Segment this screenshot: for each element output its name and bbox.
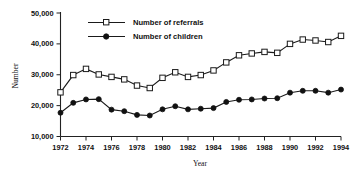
data-point [287, 41, 292, 46]
series-line [61, 36, 342, 93]
legend: Number of referrals Number of children [88, 18, 203, 41]
x-axis: 1972197419761978198019821984198619881990… [52, 137, 350, 152]
data-point [236, 53, 241, 58]
data-point [147, 85, 152, 90]
data-point [249, 51, 254, 56]
data-point [198, 72, 203, 77]
x-tick-label: 1980 [154, 143, 170, 152]
data-point [160, 75, 165, 80]
data-point [134, 83, 139, 88]
x-tick-label: 1976 [103, 143, 119, 152]
data-point [198, 106, 203, 111]
x-tick-label: 1974 [78, 143, 95, 152]
data-point [211, 106, 216, 111]
data-point [96, 97, 101, 102]
x-tick-label: 1984 [205, 143, 222, 152]
legend-marker-referrals [104, 20, 109, 25]
data-point [96, 72, 101, 77]
x-tick-label: 1994 [333, 143, 350, 152]
x-axis-title: Year [193, 159, 207, 168]
data-point [83, 66, 88, 71]
data-point [173, 104, 178, 109]
data-point [326, 39, 331, 44]
y-axis: 10,00020,00030,00040,00050,000 [31, 9, 61, 142]
data-point [186, 107, 191, 112]
data-point [147, 113, 152, 118]
legend-marker-children [104, 34, 109, 39]
x-tick-label: 1990 [282, 143, 298, 152]
data-point [237, 97, 242, 102]
y-tick-group: 10,00020,00030,00040,00050,000 [31, 9, 61, 142]
data-point [135, 112, 140, 117]
data-point [58, 90, 63, 95]
data-point [122, 77, 127, 82]
data-point [313, 38, 318, 43]
data-point [173, 70, 178, 75]
legend-label-referrals: Number of referrals [133, 18, 203, 27]
line-chart: 10,00020,00030,00040,00050,000 197219741… [0, 0, 351, 172]
data-point [211, 68, 216, 73]
y-tick-label: 50,000 [31, 9, 54, 18]
legend-label-children: Number of children [133, 32, 203, 41]
x-tick-group: 1972197419761978198019821984198619881990… [52, 137, 350, 152]
x-tick-label: 1988 [256, 143, 272, 152]
data-point [275, 50, 280, 55]
data-point [71, 100, 76, 105]
data-point [288, 90, 293, 95]
y-tick-label: 20,000 [31, 101, 54, 110]
data-point [300, 37, 305, 42]
data-point [275, 96, 280, 101]
data-point [262, 49, 267, 54]
y-tick-label: 30,000 [31, 70, 54, 79]
x-tick-label: 1992 [307, 143, 323, 152]
data-point [122, 109, 127, 114]
y-tick-label: 40,000 [31, 39, 54, 48]
data-point [84, 97, 89, 102]
data-point [326, 90, 331, 95]
data-point [109, 74, 114, 79]
chart-figure: 10,00020,00030,00040,00050,000 197219741… [0, 0, 351, 172]
data-point [160, 107, 165, 112]
x-tick-label: 1972 [52, 143, 68, 152]
data-point [58, 110, 63, 115]
series-group [58, 33, 344, 118]
data-point [313, 88, 318, 93]
data-point [71, 72, 76, 77]
data-point [109, 107, 114, 112]
data-point [224, 99, 229, 104]
x-tick-label: 1982 [180, 143, 196, 152]
x-tick-label: 1986 [231, 143, 247, 152]
y-axis-title: Number [11, 63, 20, 88]
y-tick-label: 10,000 [31, 132, 54, 141]
x-tick-label: 1978 [129, 143, 145, 152]
data-point [338, 33, 343, 38]
data-point [262, 96, 267, 101]
data-point [249, 97, 254, 102]
data-point [339, 87, 344, 92]
data-point [300, 88, 305, 93]
data-point [185, 74, 190, 79]
series-referrals [58, 33, 344, 95]
data-point [224, 60, 229, 65]
series-children [58, 87, 344, 118]
